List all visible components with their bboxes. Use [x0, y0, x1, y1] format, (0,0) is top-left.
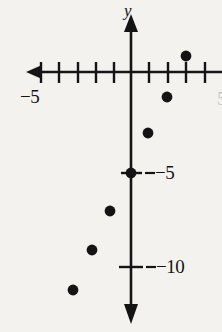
x-axis-tick-label-minus5: −5	[20, 87, 39, 106]
plot-canvas	[0, 0, 222, 332]
data-point	[87, 245, 98, 256]
data-point	[181, 51, 192, 62]
data-point	[126, 168, 137, 179]
y-axis-tick-label-minus10: −10	[156, 257, 184, 276]
y-axis-down-arrow-icon	[124, 304, 138, 324]
data-point	[68, 285, 79, 296]
y-axis-name-label: y	[124, 2, 132, 19]
data-point	[162, 92, 173, 103]
data-point	[105, 206, 116, 217]
scatter-plot-figure: y −5 −5 −10 5	[0, 0, 222, 332]
x-axis-left-arrow-icon	[26, 65, 42, 79]
data-point	[143, 128, 154, 139]
y-axis-tick-label-minus5: −5	[155, 163, 174, 182]
x-axis-right-partial-label: 5	[217, 88, 222, 110]
